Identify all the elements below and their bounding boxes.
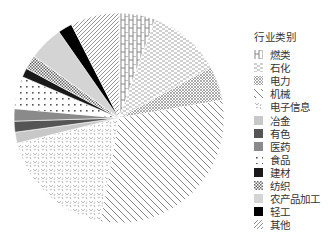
legend-swatch-icon <box>254 129 263 138</box>
legend-item: 纺织 <box>254 179 320 192</box>
legend-swatch-icon <box>254 168 263 177</box>
legend-swatch-icon <box>254 142 263 151</box>
legend-item: 电力 <box>254 74 320 87</box>
legend-item: 农产品加工 <box>254 192 320 205</box>
legend-item: 轻工 <box>254 205 320 218</box>
legend-swatch-icon <box>254 63 263 72</box>
legend-item: 电子信息 <box>254 100 320 113</box>
legend-item: 其他 <box>254 218 320 231</box>
legend-title: 行业类别 <box>254 29 320 44</box>
legend-item: 医药 <box>254 140 320 153</box>
legend-swatch-icon <box>254 76 263 85</box>
legend-item: 冶金 <box>254 113 320 126</box>
legend: 行业类别 燃类石化电力机械电子信息冶金有色医药食品建材纺织农产品加工轻工其他 <box>254 29 320 231</box>
legend-swatch-icon <box>254 207 263 216</box>
legend-swatch-icon <box>254 116 263 125</box>
legend-item: 燃类 <box>254 48 320 61</box>
legend-swatch-icon <box>254 155 263 164</box>
legend-swatch-icon <box>254 181 263 190</box>
legend-swatch-icon <box>254 220 263 229</box>
legend-swatch-icon <box>254 194 263 203</box>
legend-item: 建材 <box>254 166 320 179</box>
pie-chart <box>0 0 250 241</box>
legend-swatch-icon <box>254 89 263 98</box>
legend-label: 其他 <box>270 217 290 232</box>
legend-swatch-icon <box>254 50 263 59</box>
legend-swatch-icon <box>254 102 263 111</box>
legend-item: 有色 <box>254 127 320 140</box>
legend-item: 机械 <box>254 87 320 100</box>
legend-item: 石化 <box>254 61 320 74</box>
legend-item: 食品 <box>254 153 320 166</box>
